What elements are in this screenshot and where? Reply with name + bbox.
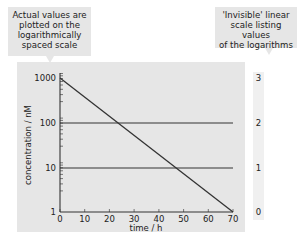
x-tick-label: 10	[79, 214, 90, 224]
x-tick-label: 70	[228, 214, 239, 224]
y-tick-label: 100	[40, 118, 56, 128]
x-tick-label: 20	[104, 214, 115, 224]
linear-scale-label: 3	[256, 73, 261, 83]
chart-svg: 1000 100 10 1 0 10 20 30 40 50 60 70 tim…	[0, 0, 298, 243]
linear-scale-label: 0	[256, 207, 261, 217]
x-tick-label: 50	[178, 214, 189, 224]
y-tick-label: 1	[51, 207, 56, 217]
linear-scale-label: 1	[256, 163, 261, 173]
x-tick-label: 60	[203, 214, 214, 224]
concentration-line	[60, 78, 233, 212]
y-axis-title: concentration / nM	[23, 105, 33, 185]
linear-scale-label: 2	[256, 118, 261, 128]
y-tick-label: 10	[45, 163, 56, 173]
x-tick-label: 0	[57, 214, 62, 224]
y-tick-label: 1000	[34, 73, 56, 83]
x-axis-title: time / h	[130, 223, 163, 233]
